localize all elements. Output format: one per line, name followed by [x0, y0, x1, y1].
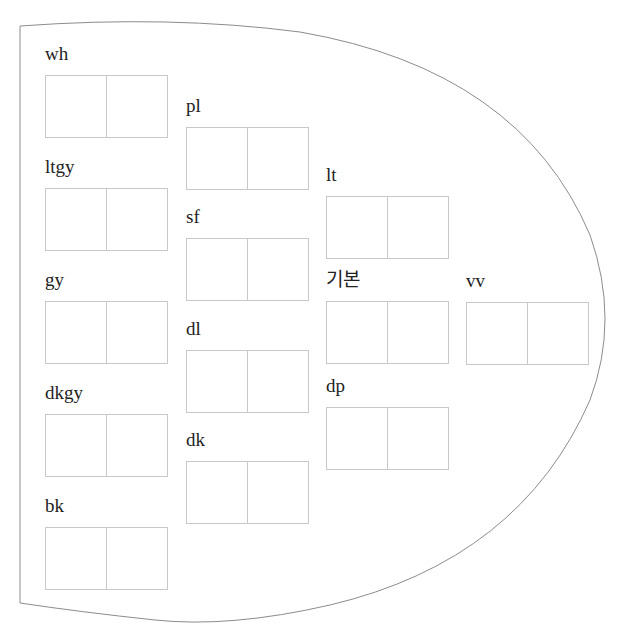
swatch-left-half[interactable]: [46, 302, 107, 363]
swatch-right-half[interactable]: [107, 528, 167, 589]
swatch-label: gy: [45, 270, 64, 289]
swatch-right-half[interactable]: [248, 462, 308, 523]
swatch-left-half[interactable]: [46, 76, 107, 137]
swatch-label: pl: [186, 96, 201, 115]
swatch-box[interactable]: [186, 350, 309, 413]
swatch-box[interactable]: [45, 527, 168, 590]
swatch-right-half[interactable]: [107, 189, 167, 250]
swatch-right-half[interactable]: [248, 128, 308, 189]
swatch-label: dkgy: [45, 383, 83, 402]
swatch-right-half[interactable]: [388, 302, 448, 363]
swatch-left-half[interactable]: [46, 415, 107, 476]
swatch-left-half[interactable]: [187, 462, 248, 523]
swatch-box[interactable]: [186, 127, 309, 190]
swatch-label: 기본: [326, 270, 360, 289]
swatch-left-half[interactable]: [46, 189, 107, 250]
swatch-box[interactable]: [326, 407, 449, 470]
swatch-box[interactable]: [186, 461, 309, 524]
swatch-left-half[interactable]: [327, 302, 388, 363]
swatch-box[interactable]: [45, 75, 168, 138]
swatch-right-half[interactable]: [528, 303, 588, 364]
swatch-left-half[interactable]: [187, 351, 248, 412]
swatch-label: vv: [466, 271, 485, 290]
swatch-left-half[interactable]: [46, 528, 107, 589]
swatch-label: bk: [45, 496, 64, 515]
swatch-label: dl: [186, 319, 201, 338]
swatch-box[interactable]: [45, 301, 168, 364]
swatch-box[interactable]: [45, 188, 168, 251]
swatch-right-half[interactable]: [248, 239, 308, 300]
swatch-label: ltgy: [45, 157, 75, 176]
swatch-right-half[interactable]: [388, 408, 448, 469]
swatch-box[interactable]: [45, 414, 168, 477]
swatch-box[interactable]: [186, 238, 309, 301]
swatch-label: dp: [326, 376, 345, 395]
swatch-box[interactable]: [466, 302, 589, 365]
swatch-label: wh: [45, 44, 68, 63]
swatch-left-half[interactable]: [187, 239, 248, 300]
swatch-label: dk: [186, 430, 205, 449]
swatch-left-half[interactable]: [187, 128, 248, 189]
swatch-right-half[interactable]: [248, 351, 308, 412]
swatch-box[interactable]: [326, 196, 449, 259]
swatch-box[interactable]: [326, 301, 449, 364]
swatch-label: sf: [186, 207, 200, 226]
swatch-right-half[interactable]: [107, 76, 167, 137]
swatch-right-half[interactable]: [388, 197, 448, 258]
swatch-label: lt: [326, 165, 337, 184]
swatch-left-half[interactable]: [467, 303, 528, 364]
swatch-right-half[interactable]: [107, 415, 167, 476]
swatch-left-half[interactable]: [327, 408, 388, 469]
swatch-left-half[interactable]: [327, 197, 388, 258]
swatch-right-half[interactable]: [107, 302, 167, 363]
